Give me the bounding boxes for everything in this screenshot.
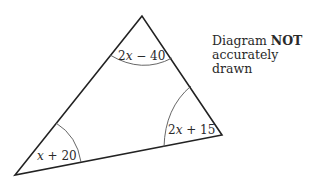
angle-label-right: 2x + 15 [168,123,215,137]
angle-label-top: 2x − 40 [118,49,165,63]
note-line2: accurately drawn [212,48,317,76]
note-emphasis: NOT [271,33,303,48]
disclaimer-note: Diagram NOT accurately drawn [212,34,317,76]
angle-arc-right [164,86,191,147]
triangle-diagram: 2x − 40 x + 20 2x + 15 [0,0,317,184]
angle-label-left: x + 20 [37,149,77,163]
note-prefix: Diagram [212,33,271,48]
